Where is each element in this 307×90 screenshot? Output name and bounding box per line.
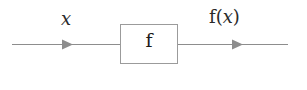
output-label-close-paren: ) bbox=[233, 6, 240, 27]
input-arrowhead-icon bbox=[62, 40, 73, 50]
function-box-label: f bbox=[120, 31, 178, 50]
output-label-function: f bbox=[209, 6, 216, 27]
output-arrowhead-icon bbox=[232, 40, 243, 50]
input-label: x bbox=[61, 10, 71, 28]
function-machine-diagram: x f(x) f bbox=[0, 0, 307, 90]
output-label: f(x) bbox=[209, 8, 240, 26]
output-label-variable: x bbox=[223, 6, 233, 27]
output-label-open-paren: ( bbox=[216, 6, 223, 27]
